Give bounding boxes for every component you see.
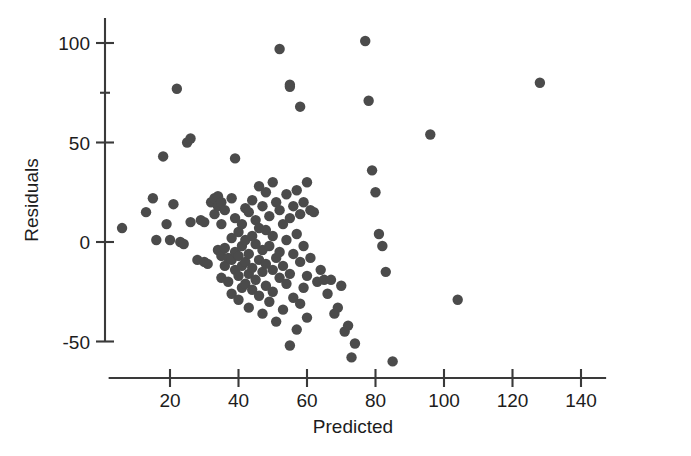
data-point (298, 197, 308, 207)
data-point (161, 219, 171, 229)
data-point (244, 249, 254, 259)
data-point (237, 219, 247, 229)
data-point (453, 295, 463, 305)
data-point (274, 247, 284, 257)
data-point (151, 235, 161, 245)
data-point (343, 320, 353, 330)
scatter-plot-figure: -50050100 20406080100120140 Residuals Pr… (0, 0, 691, 456)
data-point (288, 201, 298, 211)
data-point (172, 84, 182, 94)
data-point (305, 253, 315, 263)
data-point (316, 265, 326, 275)
data-point (254, 291, 264, 301)
x-tick-label: 40 (228, 390, 249, 411)
data-point (264, 241, 274, 251)
data-point (377, 241, 387, 251)
data-point (226, 193, 236, 203)
data-point (281, 189, 291, 199)
data-point (281, 279, 291, 289)
data-point (425, 129, 435, 139)
x-axis: 20406080100120140 (109, 369, 607, 411)
data-point (292, 229, 302, 239)
data-points (117, 36, 545, 367)
data-point (247, 195, 257, 205)
data-point (199, 217, 209, 227)
data-point (298, 241, 308, 251)
data-point (261, 187, 271, 197)
data-point (322, 289, 332, 299)
data-point (295, 101, 305, 111)
data-point (374, 229, 384, 239)
data-point (202, 259, 212, 269)
data-point (233, 295, 243, 305)
data-point (333, 302, 343, 312)
y-axis-title: Residuals (21, 158, 42, 241)
data-point (285, 269, 295, 279)
data-point (295, 298, 305, 308)
data-point (158, 151, 168, 161)
data-point (257, 201, 267, 211)
x-axis-title: Predicted (313, 416, 393, 437)
x-tick-label: 60 (296, 390, 317, 411)
y-tick-label: -50 (63, 332, 90, 353)
data-point (274, 44, 284, 54)
data-point (268, 231, 278, 241)
data-point (535, 78, 545, 88)
y-axis: -50050100 (58, 18, 114, 353)
data-point (350, 338, 360, 348)
data-point (285, 340, 295, 350)
data-point (165, 235, 175, 245)
y-tick-label: 50 (69, 133, 90, 154)
data-point (264, 297, 274, 307)
data-point (148, 193, 158, 203)
data-point (387, 356, 397, 366)
data-point (220, 243, 230, 253)
data-point (363, 96, 373, 106)
data-point (220, 205, 230, 215)
data-point (168, 199, 178, 209)
data-point (360, 36, 370, 46)
data-point (302, 271, 312, 281)
data-point (250, 275, 260, 285)
data-point (288, 249, 298, 259)
data-point (247, 263, 257, 273)
data-point (292, 185, 302, 195)
data-point (346, 352, 356, 362)
data-point (233, 271, 243, 281)
data-point (285, 213, 295, 223)
x-tick-label: 140 (565, 390, 597, 411)
data-point (281, 235, 291, 245)
data-point (370, 187, 380, 197)
data-point (264, 211, 274, 221)
data-point (309, 207, 319, 217)
data-point (336, 281, 346, 291)
y-tick-label: 0 (79, 232, 90, 253)
data-point (367, 165, 377, 175)
data-point (298, 283, 308, 293)
data-point (295, 209, 305, 219)
y-tick-label: 100 (58, 33, 90, 54)
data-point (274, 205, 284, 215)
data-point (295, 257, 305, 267)
data-point (268, 265, 278, 275)
x-tick-label: 100 (428, 390, 460, 411)
plot-canvas: -50050100 20406080100120140 Residuals Pr… (0, 0, 691, 456)
data-point (278, 261, 288, 271)
data-point (179, 239, 189, 249)
data-point (244, 302, 254, 312)
data-point (223, 277, 233, 287)
data-point (230, 153, 240, 163)
data-point (141, 207, 151, 217)
data-point (117, 223, 127, 233)
data-point (185, 217, 195, 227)
data-point (302, 312, 312, 322)
data-point (268, 177, 278, 187)
data-point (326, 275, 336, 285)
data-point (302, 177, 312, 187)
x-tick-label: 80 (365, 390, 386, 411)
data-point (216, 219, 226, 229)
x-tick-label: 20 (159, 390, 180, 411)
data-point (244, 207, 254, 217)
x-tick-label: 120 (497, 390, 529, 411)
data-point (271, 316, 281, 326)
